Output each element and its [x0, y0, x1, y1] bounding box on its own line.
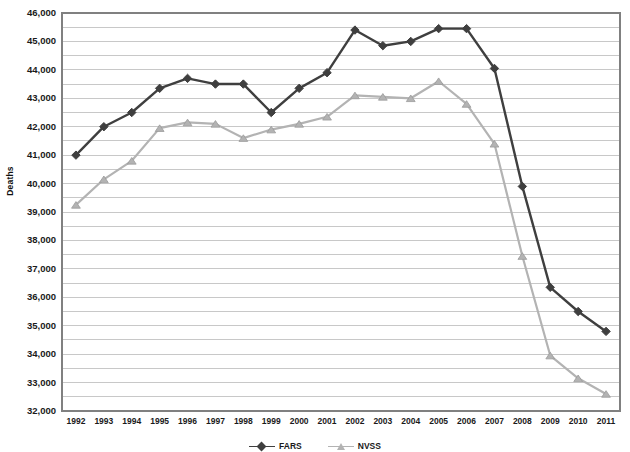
legend-label-series-1: FARS: [279, 441, 302, 451]
data-point-marker: [490, 140, 499, 147]
line-chart: Deaths 32,00033,00034,00035,00036,00037,…: [0, 0, 630, 452]
legend-entry-series-1: FARS: [249, 441, 302, 451]
data-point-marker: [211, 80, 219, 88]
data-point-marker: [183, 74, 191, 82]
legend-entry-series-2: NVSS: [328, 441, 381, 451]
plot-area: [0, 0, 630, 452]
legend-label-series-2: NVSS: [358, 441, 381, 451]
data-point-marker: [434, 24, 442, 32]
legend-marker-triangle-icon: [328, 442, 354, 451]
legend-marker-diamond-icon: [249, 442, 275, 451]
x-axis-tick-label: 2011: [586, 417, 626, 426]
data-point-marker: [407, 37, 415, 45]
chart-legend: FARS NVSS: [0, 441, 630, 452]
data-point-marker: [518, 253, 527, 260]
series-line-2: [76, 81, 606, 394]
data-point-marker: [546, 352, 555, 359]
series-line-1: [76, 29, 606, 332]
data-point-marker: [434, 78, 443, 85]
